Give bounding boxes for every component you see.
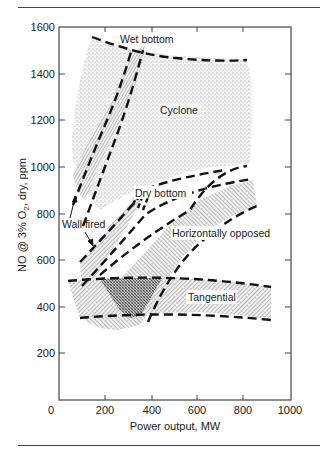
x-tick: 200 xyxy=(96,404,114,416)
y-axis-tick-labels: 200 400 600 800 1000 1200 1400 1600 xyxy=(31,21,55,359)
x-tick: 800 xyxy=(234,404,252,416)
y-tick: 400 xyxy=(37,301,55,313)
label-wall-fired: Wall fired xyxy=(62,218,106,230)
x-tick: 0 xyxy=(48,404,54,416)
x-axis-title: Power output, MW xyxy=(130,420,221,432)
label-cyclone: Cyclone xyxy=(160,104,198,116)
y-tick: 1000 xyxy=(31,161,55,173)
label-horizontally-opposed: Horizontally opposed xyxy=(172,227,270,239)
label-dry-bottom: Dry bottom xyxy=(135,187,187,199)
x-tick: 600 xyxy=(188,404,206,416)
nox-emissions-chart: 200 400 600 800 1000 1200 1400 1600 0 20… xyxy=(0,0,320,451)
x-tick: 400 xyxy=(143,404,161,416)
y-tick: 800 xyxy=(37,208,55,220)
y-tick: 1200 xyxy=(31,114,55,126)
label-wet-bottom: Wet bottom xyxy=(120,33,174,45)
y-axis-title: NO @ 3% O2, dry, ppm xyxy=(16,158,31,272)
x-axis-tick-labels: 0 200 400 600 800 1000 xyxy=(48,404,302,416)
y-tick: 1600 xyxy=(31,21,55,33)
y-tick: 1400 xyxy=(31,68,55,80)
x-tick: 1000 xyxy=(278,404,302,416)
label-tangential: Tangential xyxy=(188,291,236,303)
y-tick: 600 xyxy=(37,254,55,266)
y-axis-title-prefix: NO @ 3% O xyxy=(16,210,28,272)
y-axis-title-suffix: , dry, ppm xyxy=(16,158,28,206)
y-tick: 200 xyxy=(37,347,55,359)
